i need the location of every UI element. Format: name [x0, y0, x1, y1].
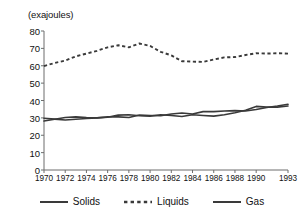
legend-label: Liquids — [157, 196, 189, 207]
line-chart: (exajoules) 01020304050607080 1970197219… — [0, 0, 304, 219]
x-tick-label: 1970 — [35, 174, 53, 183]
y-tick-label: 10 — [20, 147, 40, 158]
y-tick-label: 20 — [20, 130, 40, 141]
x-tick-label: 1980 — [141, 174, 159, 183]
data-series-group — [44, 44, 288, 121]
x-tick-label: 1974 — [77, 174, 95, 183]
series-line-liquids — [44, 44, 288, 67]
y-tick-label: 30 — [20, 112, 40, 123]
x-tick-label: 1972 — [56, 174, 74, 183]
legend-label: Solids — [73, 196, 100, 207]
y-tick-label: 50 — [20, 78, 40, 89]
legend-item-gas[interactable]: Gas — [213, 196, 264, 207]
x-tick-label: 1988 — [226, 174, 244, 183]
x-axis-tick-labels: 1970197219741976197819801982198419861988… — [0, 174, 304, 188]
chart-legend: SolidsLiquidsGas — [0, 196, 304, 207]
x-tick-label: 1982 — [162, 174, 180, 183]
y-tick-label: 70 — [20, 43, 40, 54]
legend-label: Gas — [246, 196, 264, 207]
axis-tickmarks — [41, 31, 288, 173]
x-tick-label: 1978 — [120, 174, 138, 183]
legend-swatch-solids — [40, 197, 68, 207]
x-tick-label: 1993 — [279, 174, 297, 183]
plot-svg — [44, 31, 288, 170]
y-tick-label: 80 — [20, 26, 40, 37]
plot-area — [44, 31, 288, 170]
x-tick-label: 1986 — [205, 174, 223, 183]
x-tick-label: 1976 — [99, 174, 117, 183]
legend-item-liquids[interactable]: Liquids — [124, 196, 189, 207]
legend-swatch-liquids — [124, 197, 152, 207]
legend-item-solids[interactable]: Solids — [40, 196, 100, 207]
legend-swatch-gas — [213, 197, 241, 207]
y-tick-label: 40 — [20, 95, 40, 106]
x-tick-label: 1984 — [183, 174, 201, 183]
x-tick-label: 1990 — [247, 174, 265, 183]
y-tick-label: 60 — [20, 60, 40, 71]
